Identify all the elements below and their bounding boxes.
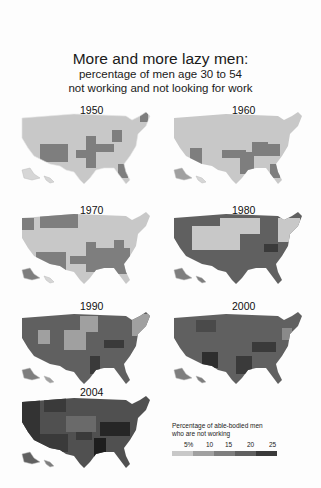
- map-year-label: 2004: [80, 386, 103, 398]
- map-year-label: 1970: [80, 204, 103, 216]
- legend-ticks: 5% 10 15 20 25: [172, 441, 282, 449]
- map-year-label: 1980: [232, 204, 255, 216]
- map-1960: 1960: [166, 108, 314, 198]
- legend-swatch-10: [193, 451, 214, 456]
- legend-title-line1: Percentage of able-bodied men: [172, 422, 263, 430]
- legend-tick-10: 10: [206, 441, 213, 448]
- legend-swatch-5: [172, 451, 193, 456]
- legend-tick-25: 25: [269, 441, 276, 448]
- map-1970: 1970: [14, 208, 162, 298]
- legend-swatch-20: [235, 451, 256, 456]
- legend-tick-15: 15: [225, 441, 232, 448]
- map-2000: 2000: [166, 308, 314, 398]
- map-1990: 1990: [14, 308, 162, 398]
- map-year-label: 1960: [232, 104, 255, 116]
- chart-subtitle-line2: not working and not looking for work: [0, 82, 321, 95]
- legend-swatch-25: [256, 451, 277, 456]
- map-1950: 1950: [14, 108, 162, 198]
- legend-title: Percentage of able-bodied men who are no…: [172, 422, 263, 438]
- map-2004: 2004: [14, 392, 162, 482]
- map-year-label: 1990: [80, 300, 103, 312]
- legend-title-line2: who are not working: [172, 430, 263, 438]
- map-1980: 1980: [166, 208, 314, 298]
- chart-title: More and more lazy men:: [0, 50, 321, 67]
- legend-swatch-15: [214, 451, 235, 456]
- legend-tick-20: 20: [247, 441, 254, 448]
- legend-tick-5: 5%: [184, 441, 193, 448]
- map-year-label: 2000: [232, 300, 255, 312]
- chart-subtitle-line1: percentage of men age 30 to 54: [0, 68, 321, 81]
- map-year-label: 1950: [80, 104, 103, 116]
- legend-color-scale: [172, 451, 277, 456]
